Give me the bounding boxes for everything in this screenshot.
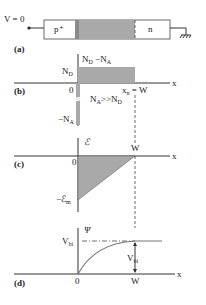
voltage-label: V = 0 xyxy=(4,14,25,24)
b-zero: 0 xyxy=(69,85,74,95)
panel-label-c: (c) xyxy=(14,159,24,169)
d-zero: 0 xyxy=(75,276,80,286)
n-region-label: n xyxy=(148,24,153,34)
panel-label-d: (d) xyxy=(14,278,25,288)
device-schematic: V = 0 p⁺ n (a) xyxy=(4,14,191,54)
panel-label-a: (a) xyxy=(14,44,25,54)
panel-label-b: (b) xyxy=(14,86,25,96)
ground-icon xyxy=(180,28,191,38)
nd-label: ND xyxy=(62,66,74,77)
c-y-label: ℰ xyxy=(84,137,91,147)
xn-label: xn = W xyxy=(122,85,148,96)
charge-density-plot: ND −NA ND 0 x xn = W NA>>ND −NA (b) xyxy=(14,54,177,145)
pn-junction-diagram: V = 0 p⁺ n (a) ND −NA ND 0 x xyxy=(0,0,206,305)
d-w-label: W xyxy=(131,276,140,286)
b-y-label: ND −NA xyxy=(82,54,112,65)
electric-field-plot: ℰ W 0 x −ℰm (c) xyxy=(14,137,177,228)
c-x-label: x xyxy=(172,151,177,161)
em-label: −ℰm xyxy=(56,194,71,205)
na-bar xyxy=(76,83,80,125)
depletion-region xyxy=(79,20,135,39)
potential-curve xyxy=(78,241,162,274)
field-triangle xyxy=(78,156,135,200)
d-x-label: x xyxy=(177,269,182,279)
p-region-label: p⁺ xyxy=(54,24,64,34)
vbi-axis-label: Vbi xyxy=(62,236,74,247)
b-x-label: x xyxy=(172,78,177,88)
d-y-label: Ψ xyxy=(84,225,91,235)
nd-bar xyxy=(78,67,135,83)
p-depletion-strip xyxy=(75,20,79,39)
potential-plot: Ψ Vbi Vbi 0 W x (d) xyxy=(14,225,182,288)
c-zero: 0 xyxy=(72,157,77,167)
vbi-arrow-label: Vbi xyxy=(127,253,139,264)
doping-condition: NA>>ND xyxy=(90,94,123,105)
c-w-label: W xyxy=(131,143,140,153)
neg-na-label: −NA xyxy=(58,114,75,125)
